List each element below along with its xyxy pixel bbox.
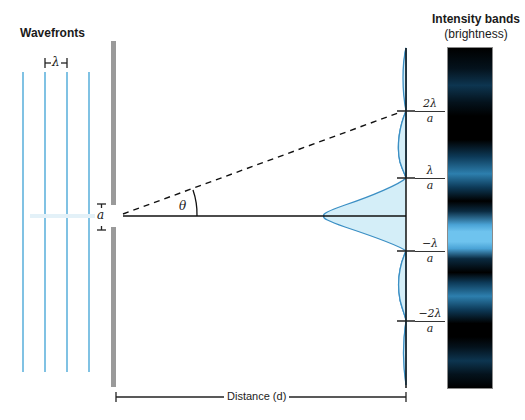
- distance-label: Distance (d): [224, 390, 289, 402]
- wavefront-lines: [23, 72, 89, 372]
- slit-barrier: [111, 41, 116, 387]
- tick-label-neg-2lambda: −2λa: [415, 307, 445, 335]
- tick-label-2lambda: 2λa: [415, 97, 445, 125]
- tick-label-neg-lambda: −λa: [415, 237, 445, 265]
- tick-label-lambda: λa: [415, 164, 445, 192]
- slit-width-label: a: [97, 208, 104, 222]
- angle-arc: [193, 190, 197, 216]
- side-lobe-1-lower: [399, 251, 406, 321]
- angle-dashed-line: [123, 113, 398, 214]
- side-lobe-1-upper: [398, 111, 406, 178]
- angle-label: θ: [179, 199, 186, 213]
- wavelength-label: λ: [52, 55, 60, 69]
- incoming-beam: [30, 214, 95, 218]
- intensity-bands-strip: [447, 47, 493, 389]
